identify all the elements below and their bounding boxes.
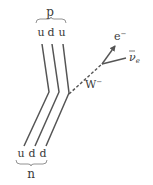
w-boson-label: W− [85, 78, 102, 91]
electron-label: e− [114, 30, 127, 43]
proton-brace [36, 17, 66, 23]
proton-quark-3: u [58, 26, 65, 39]
neutron-brace [16, 160, 47, 166]
proton-quark-1: u [37, 26, 44, 39]
neutron-quark-2: d [28, 147, 35, 160]
proton-label: p [46, 5, 54, 19]
antineutrino-label: νe [129, 51, 140, 65]
neutron-quark-3: d [39, 147, 46, 160]
proton-quark-2: d [47, 26, 54, 39]
feynman-diagram: p u d u W− e− νe u d d n [0, 0, 153, 185]
quark-lines [24, 44, 69, 146]
neutron-quark-1: u [17, 147, 24, 160]
neutron-label: n [27, 167, 35, 181]
quark-line-u [24, 44, 49, 146]
